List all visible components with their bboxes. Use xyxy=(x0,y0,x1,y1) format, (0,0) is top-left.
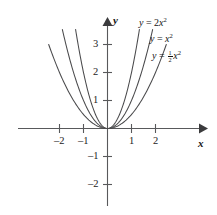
y-tick-label-pos2: 2 xyxy=(93,67,98,78)
curve-label-half-x2: y = 12x2 xyxy=(152,50,181,64)
curve-label-2x2: y = 2x2 xyxy=(139,18,167,28)
y-tick-label-neg2: –2 xyxy=(88,179,99,190)
x-axis-label: x xyxy=(198,138,204,149)
x-tick-label-pos1: 1 xyxy=(129,136,134,147)
x-axis-arrow-icon xyxy=(199,124,208,134)
y-axis-arrow-icon xyxy=(103,17,113,26)
parabola-family-figure: –2 –1 1 2 3 2 1 –1 –2 y x y = 2x2 y = x2… xyxy=(0,0,217,215)
x-tick-label-pos2: 2 xyxy=(153,136,158,147)
y-axis-label: y xyxy=(113,15,118,26)
y-tick-label-neg1: –1 xyxy=(88,151,99,162)
x-tick-label-neg2: –2 xyxy=(54,136,65,147)
y-tick-label-pos3: 3 xyxy=(93,39,98,50)
plot-canvas xyxy=(0,0,217,215)
curve-label-x2: y = x2 xyxy=(150,34,173,44)
x-tick-label-neg1: –1 xyxy=(78,136,89,147)
y-tick-label-pos1: 1 xyxy=(93,95,98,106)
